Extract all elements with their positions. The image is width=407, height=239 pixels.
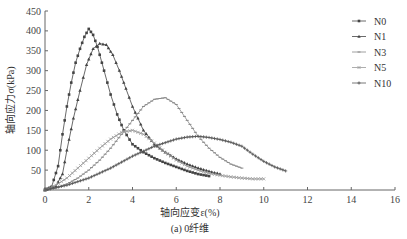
y-tick-label: 100 — [26, 145, 41, 156]
x-tick-label: 6 — [174, 194, 179, 205]
y-tick-label: 150 — [26, 125, 41, 136]
x-tick-label: 2 — [86, 194, 91, 205]
legend-item-n1: N1 — [352, 31, 386, 42]
legend-label: N3 — [374, 47, 386, 58]
x-tick-label: 14 — [346, 194, 356, 205]
x-tick-label: 10 — [259, 194, 269, 205]
x-tick-label: 16 — [390, 194, 400, 205]
y-tick-label: 200 — [26, 105, 41, 116]
series-n0 — [44, 28, 211, 192]
x-tick-label: 8 — [218, 194, 223, 205]
y-axis-title: 轴向应力σ(kPa) — [4, 66, 17, 133]
legend-item-n5: N5 — [352, 62, 386, 73]
stress-strain-chart: 024681012141650100150200250300350400450 … — [0, 0, 407, 239]
y-tick-label: 350 — [26, 45, 41, 56]
plot-area — [43, 28, 287, 192]
y-tick-label: 300 — [26, 65, 41, 76]
legend-item-n0: N0 — [352, 16, 386, 27]
x-tick-label: 0 — [43, 194, 48, 205]
legend-item-n10: N10 — [352, 78, 391, 89]
legend-item-n3: N3 — [352, 47, 386, 58]
legend-label: N5 — [374, 62, 386, 73]
legend-label: N0 — [374, 16, 386, 27]
series-n3 — [44, 98, 244, 190]
figure-caption: (a) 0纤维 — [171, 222, 210, 235]
x-axis-title: 轴向应变ε(%) — [160, 206, 219, 219]
y-tick-label: 250 — [26, 85, 41, 96]
x-tick-label: 4 — [130, 194, 135, 205]
legend-label: N10 — [374, 78, 391, 89]
y-tick-label: 400 — [26, 25, 41, 36]
y-tick-label: 450 — [26, 6, 41, 17]
x-tick-label: 12 — [303, 194, 313, 205]
legend: N0N1N3N5N10 — [352, 16, 391, 89]
legend-label: N1 — [374, 31, 386, 42]
y-tick-label: 50 — [31, 165, 41, 176]
